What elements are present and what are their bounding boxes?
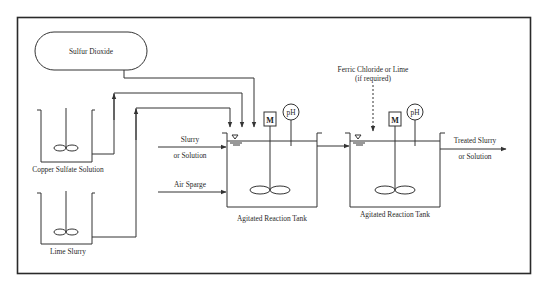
- impeller-icon: [375, 186, 395, 194]
- ferric-chloride-label-2: (if required): [355, 74, 391, 83]
- treated-output-label-2: or Solution: [458, 152, 491, 161]
- motor-label: M: [266, 116, 274, 125]
- impeller-icon: [250, 186, 270, 194]
- reaction-tank-1-label: Agitated Reaction Tank: [237, 214, 307, 223]
- impeller-icon: [54, 229, 66, 235]
- slurry-input-label-2: or Solution: [173, 151, 206, 160]
- ph-label: pH: [286, 108, 296, 117]
- copper-sulfate-label: Copper Sulfate Solution: [32, 165, 104, 174]
- ferric-chloride-label: Ferric Chloride or Lime: [338, 65, 410, 74]
- slurry-input-label: Slurry: [181, 135, 200, 144]
- sulfur-dioxide-feed-line: [124, 70, 254, 127]
- process-flow-diagram: Sulfur Dioxide Copper Sulfate Solution L…: [0, 0, 545, 293]
- sulfur-dioxide-label: Sulfur Dioxide: [69, 47, 114, 56]
- lime-slurry-tank: Lime Slurry: [37, 191, 95, 256]
- liquid-level-icon: [353, 135, 365, 145]
- motor-label: M: [391, 116, 399, 125]
- reaction-tank-2-label: Agitated Reaction Tank: [360, 210, 430, 219]
- lime-slurry-label: Lime Slurry: [50, 247, 86, 256]
- treated-output-label: Treated Slurry: [454, 136, 497, 145]
- lime-slurry-feed-line: [92, 108, 230, 237]
- sulfur-dioxide-vessel: Sulfur Dioxide: [35, 32, 147, 70]
- ph-label: pH: [410, 108, 420, 117]
- reaction-tank-2: M pH Agitated Reaction Tank: [345, 104, 445, 219]
- air-sparge-label: Air Sparge: [174, 180, 207, 189]
- reaction-tank-1: M pH Agitated Reaction Tank: [222, 104, 322, 223]
- copper-sulfate-tank: Copper Sulfate Solution: [32, 108, 104, 174]
- liquid-level-icon: [230, 135, 242, 145]
- impeller-icon: [54, 145, 66, 151]
